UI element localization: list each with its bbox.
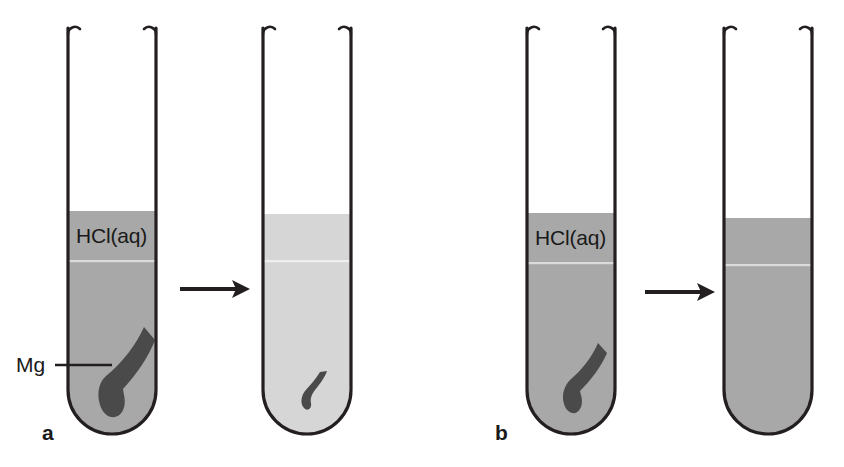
tube-b2-rim-right xyxy=(800,27,812,34)
tube-a1-rim-left xyxy=(68,27,80,34)
tube-a2-rim-right xyxy=(339,27,351,34)
tube-a2-contents xyxy=(263,214,351,436)
reaction-arrow-a xyxy=(180,280,250,298)
figure-canvas: HCl(aq) Mg xyxy=(0,0,844,467)
tube-b2-meniscus-line xyxy=(724,264,812,266)
tube-b1: HCl(aq) xyxy=(527,27,615,436)
reaction-arrow-b xyxy=(645,283,715,301)
tube-a2-meniscus-line xyxy=(263,260,351,262)
tube-b1-liquid-label: HCl(aq) xyxy=(535,226,606,249)
tube-b2-contents xyxy=(724,218,812,436)
tube-b2 xyxy=(724,27,812,436)
tube-a1: HCl(aq) xyxy=(68,27,156,436)
tube-b2-liquid xyxy=(724,218,812,436)
mg-label-text: Mg xyxy=(16,353,45,376)
tube-a1-liquid-label: HCl(aq) xyxy=(76,224,147,247)
tube-a1-rim-right xyxy=(144,27,156,34)
tube-a2-rim-left xyxy=(263,27,275,34)
reaction-figure: HCl(aq) Mg xyxy=(0,0,844,467)
tube-b1-rim-right xyxy=(603,27,615,34)
panel-a: HCl(aq) Mg xyxy=(16,27,351,444)
panel-a-label: a xyxy=(42,421,54,444)
panel-b-label: b xyxy=(495,421,508,444)
panel-b: HCl(aq) b xyxy=(495,27,812,444)
tube-b2-rim-left xyxy=(724,27,736,34)
tube-b1-meniscus-line xyxy=(527,262,615,264)
tube-a1-meniscus-line xyxy=(68,260,156,262)
tube-a2 xyxy=(263,27,351,436)
tube-b1-rim-left xyxy=(527,27,539,34)
